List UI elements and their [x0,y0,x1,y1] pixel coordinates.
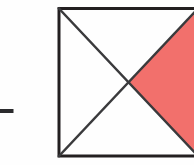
geometry-diagram [0,0,194,165]
figure-container: Square with both diagonals, one quarter … [0,0,194,165]
